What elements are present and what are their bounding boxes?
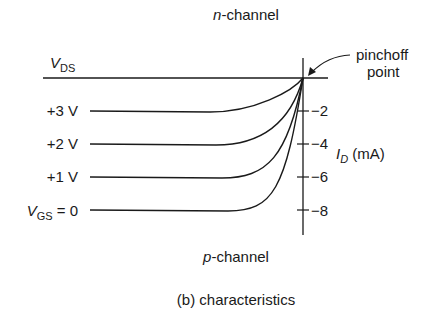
figure-caption: (b) characteristics	[177, 291, 295, 308]
fet-characteristics-diagram: n-channel VDS +3 V +2 V +1 V VGS = 0 −2 …	[0, 0, 438, 315]
pinchoff-arrowhead	[308, 67, 316, 76]
characteristic-curve	[90, 78, 303, 112]
n-channel-title: n-channel	[213, 6, 279, 23]
tick-label-minus4: −4	[311, 135, 328, 152]
curve-label-1v: +1 V	[47, 168, 78, 185]
p-channel-title: p-channel	[202, 248, 269, 265]
curve-label-2v: +2 V	[47, 135, 78, 152]
id-axis-label: ID (mA)	[336, 145, 385, 165]
vds-axis-label: VDS	[50, 54, 75, 74]
curve-label-vgs-0: VGS = 0	[27, 202, 78, 222]
curve-label-3v: +3 V	[47, 102, 78, 119]
curve-group	[90, 78, 303, 211]
characteristic-curve	[90, 78, 303, 178]
tick-label-minus8: −8	[311, 202, 328, 219]
pinchoff-label-line2: point	[367, 63, 400, 80]
pinchoff-label-line1: pinchoff	[356, 46, 409, 63]
tick-label-minus2: −2	[311, 102, 328, 119]
pinchoff-arrow	[312, 55, 350, 72]
tick-label-minus6: −6	[311, 168, 328, 185]
